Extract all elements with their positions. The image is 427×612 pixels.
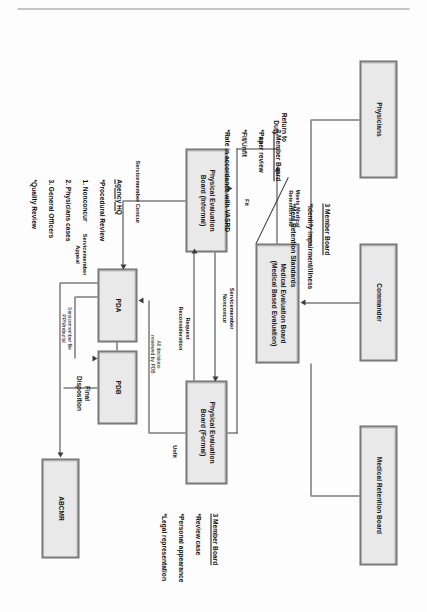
edge-ppn-down [75,296,97,297]
annotation-agency-hq-line-2: 1. Nonconcur [81,179,88,221]
node-peb-formal[interactable]: Physical Evaluation Board (Formal) [185,380,227,484]
annotation-agency-hq-line-1: *Procedural Review [98,179,105,241]
diagram-frame: Physicians Commander Medical Retention B… [0,0,427,612]
node-pda[interactable]: PDA [97,268,137,342]
node-physicians[interactable]: Physicians [359,60,397,178]
flowchart-canvas: Physicians Commander Medical Retention B… [0,0,427,612]
annotation-peb-formal-line-3: *Legal representation [160,513,167,580]
edge-commander-to-meb [304,302,359,303]
edge-unfit-down [149,432,185,433]
annotation-agency-hq-line-3: 2. Physicians cases [64,179,71,241]
top-border-rule [17,8,409,9]
annotation-agency-hq-line-5: *Quality Review [30,179,37,228]
annotation-peb-informal-heading: 3 Member Board [274,129,281,181]
node-pda-label: PDA [113,298,122,312]
label-final-disposition: Final Disposition [74,368,90,418]
edge-physicians-down [311,119,359,120]
annotation-agency-hq: Agency HQ *Procedural Review 1. Nonconcu… [20,168,131,241]
annotation-peb-informal-line-3: *Rate in accordance with VASRD [223,129,230,231]
label-request-reconsideration: Request Reconsideration [176,286,190,370]
annotation-meb-heading: 3 Member Board [323,203,330,255]
label-servicemember-concur: Servicemember Concur [133,160,140,270]
edge-formal-fit-up [227,432,237,433]
node-commander-label: Commander [374,283,383,321]
annotation-peb-informal-line-1: *Paper review [257,129,264,172]
node-medical-retention-board-label: Medical Retention Board [374,456,383,533]
label-unfit: Unfit [170,436,177,466]
edge-commander-to-meb-arrow [300,299,305,305]
node-medical-retention-board[interactable]: Medical Retention Board [359,425,397,565]
edge-nonconcur-arrow [212,376,218,381]
node-abcmr[interactable]: ABCMR [41,458,79,558]
annotation-peb-formal-line-2: *Personal appearance [177,513,184,582]
annotation-peb-formal-line-1: *Review case [194,513,201,555]
edge-peb-informal-concur-down [123,200,185,201]
annotation-peb-informal: 3 Member Board *Paper review *Fit/Unfit … [213,118,290,231]
edge-appeal-arrow [57,452,63,457]
edge-ppn-arrow [92,355,97,361]
node-physicians-label: Physicians [374,102,383,136]
node-pdb[interactable]: PDB [97,350,137,424]
node-abcmr-label: ABCMR [56,496,65,521]
annotation-peb-formal: 3 Member Board *Review case *Personal ap… [150,502,227,582]
annotation-agency-hq-heading: Agency HQ [115,179,122,215]
label-servicemember-file: Servicemember file PPN/rebuttal [60,288,73,368]
edge-mrb-down [311,495,359,496]
node-peb-formal-label: Physical Evaluation Board (Formal) [197,401,215,463]
edge-request-recon-rail [193,252,194,380]
edge-nonconcur-rail [214,252,215,380]
annotation-agency-hq-line-4: 3. General Officers [47,179,54,238]
label-servicemember-nonconcur: Servicemember Nonconcur [220,268,234,348]
annotation-peb-informal-line-2: *Fit/Unfit [240,129,247,156]
edge-concur-to-pda-arrow [120,264,126,269]
edge-ppn-rail [74,296,75,358]
label-all-decisions: All decisions reviewed by PDB [149,312,162,396]
annotation-peb-formal-heading: 3 Member Board [211,513,218,565]
edge-request-recon-arrow [191,248,197,253]
edge-unfit-arrow [138,297,143,303]
node-commander[interactable]: Commander [359,243,397,361]
annotation-meb-line-1: *Identify impairment/illness [306,203,313,289]
node-peb-informal-label: Physical Evaluation Board (Informal) [197,169,215,231]
edge-pda-pdb [116,342,117,350]
edge-mrb-rail [310,363,311,496]
node-pdb-label: PDB [113,380,122,394]
